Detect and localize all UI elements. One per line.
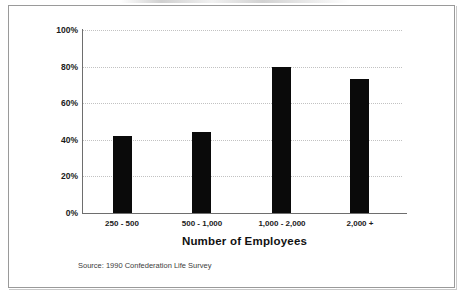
y-axis-line (82, 29, 83, 214)
chart-figure: 100% 80% 60% 40% 20% 0% 250 - 500 500 - … (0, 0, 464, 304)
source-note: Source: 1990 Confederation Life Survey (78, 261, 211, 270)
x-axis-line (82, 213, 407, 214)
y-tick-0: 0% (66, 208, 78, 218)
y-tick-100: 100% (56, 25, 78, 35)
y-tick-80: 80% (61, 62, 78, 72)
x-tick-2000-plus: 2,000 + (347, 219, 374, 228)
bar-500-1000[interactable] (192, 132, 211, 213)
x-axis-title: Number of Employees (82, 235, 407, 247)
x-tick-1000-2000: 1,000 - 2,000 (258, 219, 305, 228)
bar-250-500[interactable] (113, 136, 132, 213)
bar-2000-plus[interactable] (350, 79, 369, 213)
y-axis-tick-labels: 100% 80% 60% 40% 20% 0% (40, 30, 78, 213)
plot-area (82, 30, 402, 213)
y-tick-40: 40% (61, 135, 78, 145)
scan-artifact (120, 0, 350, 3)
gridline-100 (82, 30, 402, 31)
x-tick-250-500: 250 - 500 (105, 219, 139, 228)
y-tick-20: 20% (61, 171, 78, 181)
x-tick-500-1000: 500 - 1,000 (182, 219, 222, 228)
y-tick-60: 60% (61, 98, 78, 108)
bar-1000-2000[interactable] (272, 67, 291, 213)
gridline-80 (82, 67, 402, 68)
